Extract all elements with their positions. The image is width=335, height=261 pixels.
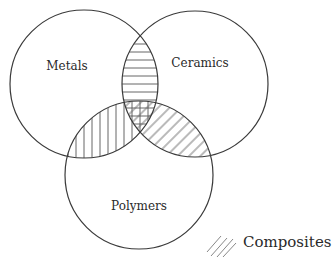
ceramics-label: Ceramics xyxy=(171,56,228,70)
composites-legend-label: Composites xyxy=(243,233,331,251)
venn-diagram: Metals Ceramics Polymers Composites xyxy=(0,0,335,261)
intersection-ceramics-polymers xyxy=(0,0,335,261)
legend: Composites xyxy=(207,233,331,257)
polymers-label: Polymers xyxy=(111,199,167,213)
composites-hatch-icon xyxy=(207,236,236,257)
metals-label: Metals xyxy=(46,59,87,73)
